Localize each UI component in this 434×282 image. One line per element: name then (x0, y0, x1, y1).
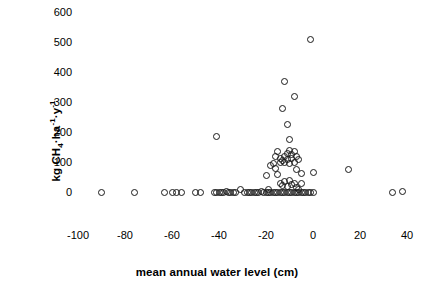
data-point (286, 189, 293, 196)
data-point (277, 155, 284, 162)
data-point (291, 148, 298, 155)
y-tick-600: 600 (42, 7, 72, 18)
data-point (295, 186, 302, 193)
data-point (295, 156, 302, 163)
data-point (237, 186, 244, 193)
data-point (258, 188, 265, 195)
data-point (277, 159, 284, 166)
data-point (298, 189, 305, 196)
data-point (291, 180, 298, 187)
data-point (98, 189, 105, 196)
x-tick--100: -100 (67, 230, 89, 241)
data-point (248, 189, 255, 196)
data-point (284, 121, 291, 128)
x-tick--80: -80 (117, 230, 133, 241)
x-tick--40: -40 (211, 230, 227, 241)
data-point (288, 155, 295, 162)
data-point (211, 189, 218, 196)
data-point (263, 189, 270, 196)
data-point (178, 189, 185, 196)
x-tick--60: -60 (164, 230, 180, 241)
data-point (300, 189, 307, 196)
data-point (281, 189, 288, 196)
y-tick-500: 500 (42, 37, 72, 48)
data-point (295, 189, 302, 196)
data-point (263, 172, 270, 179)
data-point (291, 189, 298, 196)
data-point (291, 93, 298, 100)
data-point (284, 150, 291, 157)
data-point (293, 153, 300, 160)
data-point (298, 180, 305, 187)
data-point (255, 189, 262, 196)
x-tick-0: 0 (310, 230, 316, 241)
data-point (310, 169, 317, 176)
data-point (286, 136, 293, 143)
data-point (288, 189, 295, 196)
data-point (272, 189, 279, 196)
scatter-chart: 0100200300400500600 -100-80-60-40-200204… (0, 0, 434, 282)
data-point (267, 162, 274, 169)
data-point (307, 189, 314, 196)
data-point (284, 156, 291, 163)
data-point (244, 189, 251, 196)
data-point (213, 133, 220, 140)
data-point (260, 189, 267, 196)
data-point (284, 189, 291, 196)
data-point (286, 147, 293, 154)
data-point (291, 159, 298, 166)
data-point (274, 148, 281, 155)
data-point (267, 189, 274, 196)
data-point (230, 189, 237, 196)
data-point (288, 151, 295, 158)
data-point (279, 157, 286, 164)
y-axis-title: kg CH4·ha-1·y-1 (48, 101, 65, 182)
data-point (310, 189, 317, 196)
data-point (272, 165, 279, 172)
data-point (270, 160, 277, 167)
data-point (173, 189, 180, 196)
data-point (227, 189, 234, 196)
data-point (216, 189, 223, 196)
data-point (197, 189, 204, 196)
data-point (293, 184, 300, 191)
data-point (218, 189, 225, 196)
data-point (281, 78, 288, 85)
data-point (265, 186, 272, 193)
data-point (241, 189, 248, 196)
data-point (274, 171, 281, 178)
data-point (265, 189, 272, 196)
data-point (253, 189, 260, 196)
data-point (298, 170, 305, 177)
data-point (288, 181, 295, 188)
data-point (389, 189, 396, 196)
data-point (232, 189, 239, 196)
data-point (305, 189, 312, 196)
data-point (302, 189, 309, 196)
data-point (307, 36, 314, 43)
data-point (192, 189, 199, 196)
data-point (284, 183, 291, 190)
data-point (270, 189, 277, 196)
data-point (213, 189, 220, 196)
data-point (293, 166, 300, 173)
x-tick-20: 20 (354, 230, 366, 241)
data-point (345, 166, 352, 173)
data-point (220, 189, 227, 196)
data-point (251, 189, 258, 196)
y-tick-0: 0 (42, 187, 72, 198)
data-point (223, 188, 230, 195)
data-point (169, 189, 176, 196)
data-point (131, 189, 138, 196)
data-point (399, 188, 406, 195)
data-point (279, 189, 286, 196)
data-point (246, 189, 253, 196)
data-point (281, 159, 288, 166)
x-tick-40: 40 (401, 230, 413, 241)
x-tick--20: -20 (258, 230, 274, 241)
x-axis-title: mean annual water level (cm) (0, 266, 434, 278)
y-tick-400: 400 (42, 67, 72, 78)
data-point (274, 189, 281, 196)
data-point (279, 105, 286, 112)
data-point (279, 182, 286, 189)
